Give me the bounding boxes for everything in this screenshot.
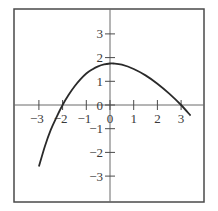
x-tick-label: 0 <box>107 111 114 126</box>
chart-canvas: −3−2−10123 3210−1−2−3 <box>0 0 218 211</box>
x-tick-label: −3 <box>30 111 44 126</box>
x-tick-label: 3 <box>178 111 185 126</box>
y-tick-label: 3 <box>97 26 104 41</box>
y-tick-label: 1 <box>97 74 104 89</box>
y-tick-label: −3 <box>89 169 103 184</box>
y-tick-label: −2 <box>89 145 103 160</box>
y-tick-label: 0 <box>97 98 104 113</box>
y-tick-label: 2 <box>97 50 104 65</box>
x-tick-label: 1 <box>130 111 137 126</box>
x-axis-ticks: −3−2−10123 <box>30 100 184 126</box>
y-tick-label: −1 <box>89 121 103 136</box>
x-tick-label: 2 <box>154 111 161 126</box>
